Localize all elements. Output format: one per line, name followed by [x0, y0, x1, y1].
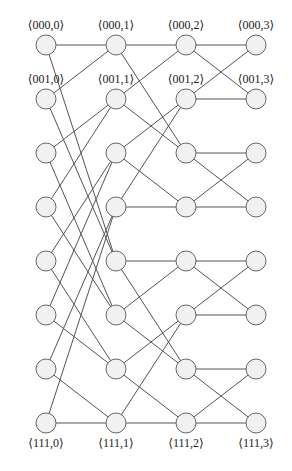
node-row3-col3: [246, 197, 266, 217]
node-label: ⟨000,3⟩: [238, 18, 274, 32]
butterfly-network-diagram: ⟨000,0⟩⟨000,1⟩⟨000,2⟩⟨000,3⟩⟨001,0⟩⟨001,…: [0, 0, 292, 471]
node-row4-col3: [246, 251, 266, 271]
node-label: ⟨111,1⟩: [98, 436, 133, 450]
node-row2-col3: [246, 143, 266, 163]
edge-stage0_to_1-2-1: [46, 99, 116, 153]
node-label: ⟨111,0⟩: [28, 436, 63, 450]
node-label: ⟨000,0⟩: [28, 18, 64, 32]
node-row7-col0: [36, 413, 56, 433]
node-label: ⟨000,1⟩: [98, 18, 134, 32]
node-row4-col1: [106, 251, 126, 271]
node-row7-col2: [176, 413, 196, 433]
edge-stage0_to_1-6-3: [46, 207, 116, 369]
node-row4-col0: [36, 251, 56, 271]
node-label: ⟨001,0⟩: [28, 72, 64, 86]
edge-stage0_to_1-1-4: [46, 99, 116, 261]
node-label: ⟨111,3⟩: [238, 436, 273, 450]
edge-stage1_to_2-2-3: [116, 153, 186, 207]
node-row0-col1: [106, 35, 126, 55]
node-row6-col1: [106, 359, 126, 379]
node-row3-col0: [36, 197, 56, 217]
node-row5-col3: [246, 305, 266, 325]
node-row2-col2: [176, 143, 196, 163]
edge-stage1_to_2-6-7: [116, 369, 186, 423]
node-row0-col2: [176, 35, 196, 55]
labels-layer: ⟨000,0⟩⟨000,1⟩⟨000,2⟩⟨000,3⟩⟨001,0⟩⟨001,…: [28, 18, 274, 450]
node-row1-col3: [246, 89, 266, 109]
edges-layer: [46, 45, 256, 423]
node-row0-col0: [36, 35, 56, 55]
node-label: ⟨111,2⟩: [168, 436, 203, 450]
node-row2-col1: [106, 143, 126, 163]
node-label: ⟨001,2⟩: [168, 72, 204, 86]
node-row7-col3: [246, 413, 266, 433]
node-row7-col1: [106, 413, 126, 433]
node-row6-col0: [36, 359, 56, 379]
node-row3-col1: [106, 197, 126, 217]
node-label: ⟨001,1⟩: [98, 72, 134, 86]
edge-stage1_to_2-5-4: [116, 261, 186, 315]
node-row1-col0: [36, 89, 56, 109]
edge-stage0_to_1-6-7: [46, 369, 116, 423]
node-row4-col2: [176, 251, 196, 271]
nodes-layer: [36, 35, 266, 433]
node-row1-col1: [106, 89, 126, 109]
node-row3-col2: [176, 197, 196, 217]
node-label: ⟨000,2⟩: [168, 18, 204, 32]
node-row6-col3: [246, 359, 266, 379]
node-row2-col0: [36, 143, 56, 163]
node-row6-col2: [176, 359, 196, 379]
node-row5-col0: [36, 305, 56, 325]
node-row1-col2: [176, 89, 196, 109]
edge-stage0_to_1-5-6: [46, 315, 116, 369]
node-label: ⟨001,3⟩: [238, 72, 274, 86]
node-row5-col2: [176, 305, 196, 325]
node-row5-col1: [106, 305, 126, 325]
node-row0-col3: [246, 35, 266, 55]
